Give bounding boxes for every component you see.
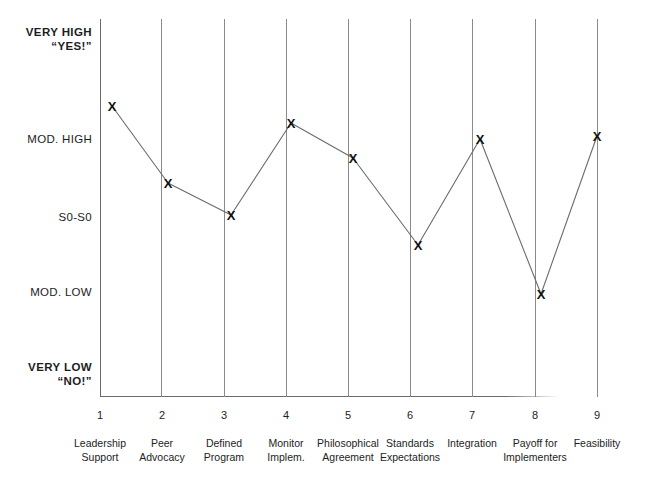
x-axis-tick-number: 1 — [97, 409, 103, 421]
x-axis-line — [100, 396, 560, 397]
gridline — [161, 19, 162, 397]
data-point-marker: X — [287, 117, 296, 130]
y-axis-tick-label-line1: MOD. HIGH — [27, 133, 92, 145]
x-axis-tick-number: 5 — [345, 409, 351, 421]
x-axis-category-label-line2: Expectations — [364, 450, 456, 464]
y-axis-tick-label-line1: MOD. LOW — [30, 286, 92, 298]
chart-container: VERY HIGH“YES!”MOD. HIGHS0-S0MOD. LOWVER… — [0, 0, 651, 482]
x-axis-tick-number: 4 — [283, 409, 289, 421]
x-axis-tick-number: 6 — [407, 409, 413, 421]
y-axis-tick-label: VERY HIGH“YES!” — [0, 26, 92, 54]
x-axis-category-label-line2: Implementers — [489, 450, 581, 464]
y-axis-tick-label: MOD. HIGH — [0, 133, 92, 147]
gridline — [348, 19, 349, 397]
y-axis-tick-label: MOD. LOW — [0, 286, 92, 300]
data-point-marker: X — [537, 288, 546, 301]
y-axis-tick-label-line2: “YES!” — [0, 40, 92, 54]
x-axis-tick-number: 2 — [159, 409, 165, 421]
x-axis-category-label-line1: Feasibility — [574, 437, 621, 449]
data-point-marker: X — [349, 152, 358, 165]
x-axis-tick-number: 7 — [469, 409, 475, 421]
y-axis-tick-label-line2: “NO!” — [0, 375, 92, 389]
y-axis-tick-label-line1: VERY HIGH — [26, 26, 92, 38]
data-point-marker: X — [414, 239, 423, 252]
data-point-marker: X — [593, 130, 602, 143]
x-axis-tick-number: 9 — [594, 409, 600, 421]
x-axis-category-label-line1: Peer — [151, 437, 173, 449]
y-axis-tick-label: VERY LOW“NO!” — [0, 361, 92, 389]
data-point-marker: X — [476, 133, 485, 146]
y-axis-tick-label: S0-S0 — [0, 211, 92, 225]
gridline — [472, 19, 473, 397]
y-axis-tick-label-line1: S0-S0 — [59, 211, 92, 223]
gridline — [597, 19, 598, 397]
data-point-marker: X — [108, 100, 117, 113]
gridline — [410, 19, 411, 397]
gridline — [224, 19, 225, 397]
data-point-marker: X — [164, 177, 173, 190]
x-axis-category-label: Feasibility — [551, 436, 643, 450]
x-axis-tick-number: 3 — [221, 409, 227, 421]
gridline — [535, 19, 536, 397]
gridline — [286, 19, 287, 397]
y-axis-tick-label-line1: VERY LOW — [28, 361, 92, 373]
y-axis-line — [100, 19, 101, 397]
x-axis-category-label-line1: Monitor — [268, 437, 303, 449]
x-axis-category-label-line1: Defined — [206, 437, 242, 449]
x-axis-tick-number: 8 — [532, 409, 538, 421]
data-point-marker: X — [227, 209, 236, 222]
